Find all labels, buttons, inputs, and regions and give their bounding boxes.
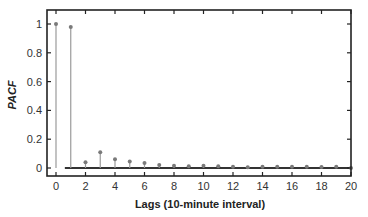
stem-point <box>216 164 220 168</box>
x-tick-label: 14 <box>256 180 268 192</box>
stem-point <box>128 160 132 168</box>
stem-point <box>261 165 265 169</box>
stem-point <box>290 165 294 169</box>
x-tick-label: 20 <box>345 180 357 192</box>
x-tick-label: 0 <box>53 180 59 192</box>
stem-point <box>84 160 88 168</box>
y-tick-label: 0.4 <box>27 104 42 116</box>
axes-frame <box>47 10 351 176</box>
stem-point <box>246 165 250 169</box>
stem-point <box>54 22 58 168</box>
stem-point <box>187 164 191 168</box>
y-tick-label: 0.8 <box>27 47 42 59</box>
stem-point <box>69 25 73 168</box>
x-tick-label: 2 <box>82 180 88 192</box>
x-tick-label: 6 <box>141 180 147 192</box>
x-tick-label: 16 <box>286 180 298 192</box>
x-tick-label: 18 <box>315 180 327 192</box>
y-tick-label: 0.2 <box>27 133 42 145</box>
x-tick-label: 4 <box>112 180 118 192</box>
axes-box <box>47 10 351 176</box>
stem-point <box>320 165 324 169</box>
stem-point <box>334 165 338 169</box>
stem-point <box>231 165 235 169</box>
y-tick-label: 0 <box>36 162 42 174</box>
x-tick-label: 10 <box>197 180 209 192</box>
stem-point <box>143 161 147 168</box>
stem-point <box>113 157 117 168</box>
stem-series <box>54 22 353 170</box>
y-tick-label: 1 <box>36 18 42 30</box>
stem-point <box>275 165 279 169</box>
x-tick-label: 12 <box>227 180 239 192</box>
y-tick-label: 0.6 <box>27 76 42 88</box>
stem-point <box>98 150 102 168</box>
y-axis-ticks: 00.20.40.60.81 <box>27 18 351 174</box>
pacf-chart: 02468101214161820 00.20.40.60.81 Lags (1… <box>0 0 368 217</box>
x-axis-title: Lags (10-minute interval) <box>135 198 266 210</box>
x-tick-label: 8 <box>171 180 177 192</box>
stem-point <box>305 165 309 169</box>
y-axis-title: PACF <box>6 80 18 109</box>
